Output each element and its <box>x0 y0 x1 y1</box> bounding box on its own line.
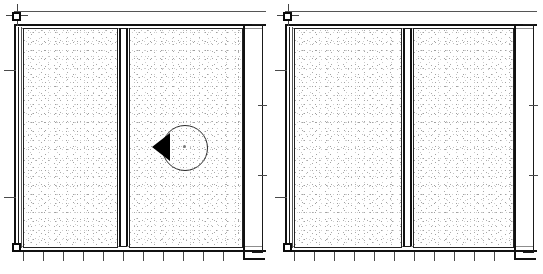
dimension-tick <box>494 252 495 261</box>
dimension-bracket-right <box>523 24 534 253</box>
wall-panel-b[interactable] <box>413 28 514 248</box>
section-marker-triangle-pointer <box>152 133 170 161</box>
left-edge-tick-2 <box>275 197 287 198</box>
column-node-top-left[interactable] <box>12 12 21 21</box>
top-edge-line <box>285 24 537 26</box>
bottom-bracket-horizontal <box>514 258 536 260</box>
dimension-tick <box>43 252 44 261</box>
dimension-tick <box>474 252 475 261</box>
dimension-tick <box>203 252 204 261</box>
wall-panel-a[interactable] <box>294 28 402 248</box>
bottom-bracket-horizontal <box>243 258 265 260</box>
dimension-tick <box>334 252 335 261</box>
bottom-edge-line <box>14 250 266 252</box>
dimension-tick <box>123 252 124 261</box>
left-edge-tick-2 <box>4 197 16 198</box>
column-node-top-left[interactable] <box>283 12 292 21</box>
bracket-tick-1 <box>529 105 538 106</box>
left-stile-inner <box>289 27 290 248</box>
left-stile-inner <box>18 27 19 248</box>
right-stile <box>243 26 245 248</box>
drawing-view-left[interactable] <box>0 0 271 274</box>
column-node-bottom-left[interactable] <box>283 243 292 252</box>
joint-line-right <box>410 28 412 246</box>
dimension-tick <box>314 252 315 261</box>
section-marker-center-dot <box>183 145 186 148</box>
bracket-tick-1 <box>258 105 267 106</box>
wall-panel-a[interactable] <box>23 28 118 248</box>
column-node-bottom-left[interactable] <box>12 243 21 252</box>
dimension-tick <box>374 252 375 261</box>
dimension-tick <box>183 252 184 261</box>
joint-line-left <box>403 28 405 246</box>
dimension-tick <box>83 252 84 261</box>
left-edge-tick-1 <box>4 70 16 71</box>
joint-cap-bottom <box>119 246 127 247</box>
left-stile-outer <box>14 24 16 251</box>
reference-line-top <box>285 11 537 12</box>
left-stile-face <box>21 27 22 248</box>
dimension-tick <box>434 252 435 261</box>
dimension-tick <box>103 252 104 261</box>
drawing-canvas <box>0 0 543 274</box>
reference-line-top <box>14 11 266 12</box>
joint-cap-top <box>403 28 411 29</box>
dimension-tick <box>454 252 455 261</box>
dimension-tick <box>223 252 224 261</box>
top-edge-line <box>14 24 266 26</box>
joint-cap-top <box>119 28 127 29</box>
left-stile-face <box>292 27 293 248</box>
drawing-view-right[interactable] <box>271 0 543 274</box>
dimension-tick <box>143 252 144 261</box>
dimension-bracket-right <box>252 24 263 253</box>
joint-line-left <box>119 28 121 246</box>
section-detail-marker[interactable] <box>152 123 208 179</box>
dimension-tick <box>294 252 295 261</box>
dimension-tick <box>354 252 355 261</box>
dimension-tick <box>63 252 64 261</box>
left-edge-tick-1 <box>275 70 287 71</box>
bottom-edge-line <box>285 250 537 252</box>
joint-cap-bottom <box>403 246 411 247</box>
joint-line-right <box>126 28 128 246</box>
dimension-tick <box>23 252 24 261</box>
left-stile-outer <box>285 24 287 251</box>
dimension-tick <box>163 252 164 261</box>
bracket-tick-2 <box>258 175 267 176</box>
right-stile <box>514 26 516 248</box>
dimension-tick <box>394 252 395 261</box>
dimension-tick <box>414 252 415 261</box>
bracket-tick-2 <box>529 175 538 176</box>
